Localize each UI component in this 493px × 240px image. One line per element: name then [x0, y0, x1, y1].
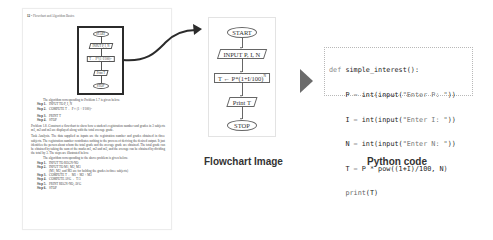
- page-header-title: Flowchart and Algorithm Basics: [33, 14, 74, 18]
- stop-node: STOP: [227, 120, 257, 131]
- curved-arrow-icon: [118, 20, 208, 70]
- mini-connector: [101, 36, 102, 43]
- code-line: N = int(input("Enter N: ")): [329, 140, 468, 148]
- mini-connector: [101, 61, 102, 70]
- python-code-block: def simple_interest(): P = int(input("En…: [324, 47, 473, 96]
- mini-connector: [101, 75, 102, 83]
- input-node: INPUT P, I, N: [217, 49, 267, 59]
- mini-stop-node: STOP: [93, 83, 109, 89]
- step-line: Step 4.STOP: [31, 118, 165, 122]
- page-header: 12 • Flowchart and Algorithm Basics: [27, 14, 74, 18]
- code-line: def simple_interest():: [329, 66, 468, 74]
- python-code-caption: Python code: [367, 156, 427, 167]
- connector-arrow: [242, 59, 243, 72]
- page-body-text: The algorithm corresponding to Problem 1…: [31, 98, 165, 190]
- mini-connector: [101, 48, 102, 56]
- step-line: Step 2.COMPUTE T ← P × (1 + I/100)ᴺ: [31, 107, 165, 111]
- problem-statement: Problem 1.8. Construct a flowchart to sh…: [31, 124, 165, 132]
- code-line: P = int(input("Enter P: ")): [329, 91, 468, 99]
- connector-arrow: [242, 83, 243, 96]
- task-analysis: Task Analysis. The data supplied as inpu…: [31, 134, 165, 155]
- highlighted-flowchart-frame: START INPUT P, I, N T ← P*(1+I/100)ᴺ Pri…: [77, 26, 124, 95]
- code-line: I = int(input("Enter I: ")): [329, 116, 468, 124]
- print-node: Print T: [226, 97, 257, 107]
- step-line: Step 1.INPUT TO P, I, N: [31, 102, 165, 106]
- page-number: 12: [27, 14, 30, 18]
- triangle-arrow-icon: [300, 69, 313, 93]
- start-node: START: [227, 27, 257, 38]
- flowchart-image: START INPUT P, I, N T ← P*(1+I/100)N Pri…: [208, 17, 276, 137]
- compute-node: T ← P*(1+I/100)N: [214, 73, 270, 83]
- flowchart-caption: Flowchart Image: [204, 156, 283, 167]
- code-line: print(T): [329, 189, 468, 197]
- step-line: Step 6.STOP: [31, 186, 165, 190]
- connector-arrow: [242, 107, 243, 119]
- connector-arrow: [242, 38, 243, 48]
